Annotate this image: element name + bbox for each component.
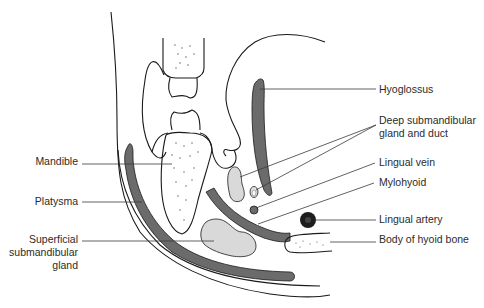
mandible-ramus-outline [142, 62, 166, 158]
mandible-bone [161, 132, 212, 234]
mandible-flange [152, 133, 236, 168]
label-deep-gland-line1: Deep submandibular [379, 114, 476, 126]
skin-outline [111, 12, 330, 297]
lingual-artery-lumen [305, 217, 311, 223]
hyoglossus-muscle [252, 79, 272, 195]
leader-deep-gland-b [256, 125, 376, 190]
leader-mylohyoid [258, 183, 374, 224]
label-hyoid: Body of hyoid bone [379, 233, 469, 245]
submandibular-duct-lumen [252, 190, 256, 196]
anatomy-diagram: Hyoglossus Deep submandibular gland and … [0, 0, 484, 308]
tongue-outline [224, 35, 325, 157]
label-hyoglossus: Hyoglossus [379, 83, 433, 95]
leader-lingual-vein [256, 163, 375, 208]
label-mandible: Mandible [35, 155, 78, 167]
upper-bone-block [163, 38, 204, 78]
label-deep-gland-line2: gland and duct [379, 127, 448, 139]
label-lingual-artery: Lingual artery [379, 213, 443, 225]
label-platysma: Platysma [35, 195, 78, 207]
label-superficial-line2: submandibular [9, 246, 78, 258]
lingual-vein [250, 206, 258, 214]
upper-disc [169, 78, 198, 98]
lower-disc [171, 110, 200, 130]
label-lingual-vein: Lingual vein [379, 156, 435, 168]
deep-submandibular-gland [228, 167, 245, 202]
label-mylohyoid: Mylohyoid [379, 176, 426, 188]
hyoid-bone [285, 233, 332, 253]
label-superficial-line3: gland [52, 259, 78, 271]
label-superficial-line1: Superficial [29, 233, 78, 245]
